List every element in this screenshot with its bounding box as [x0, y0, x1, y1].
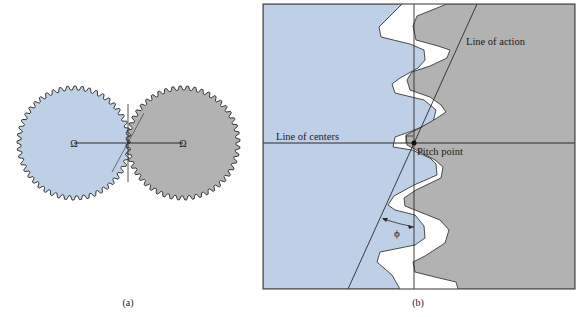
line-of-centers-label: Line of centers — [276, 131, 339, 142]
line-of-action-label: Line of action — [466, 36, 526, 47]
caption-b: (b) — [412, 297, 424, 309]
gear-diagram: Ω Ω (a) Line of centers Line of — [0, 0, 579, 317]
pitch-point-label: Pitch point — [417, 146, 463, 157]
right-gear-center-symbol: Ω — [179, 138, 186, 149]
panel-a: Ω Ω (a) — [17, 86, 240, 309]
pressure-angle-label: ϕ — [394, 227, 400, 239]
panel-b: Line of centers Line of action Pitch poi… — [263, 4, 575, 309]
caption-a: (a) — [122, 297, 133, 309]
left-gear-center-symbol: Ω — [70, 138, 77, 149]
pitch-point-dot — [412, 141, 417, 146]
